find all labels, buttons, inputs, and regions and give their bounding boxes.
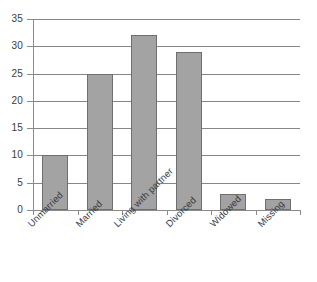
y-tick-mark-35 — [27, 19, 33, 20]
y-tick-label-5: 5 — [1, 178, 23, 188]
y-tick-label-20: 20 — [1, 96, 23, 106]
y-tick-mark-5 — [27, 183, 33, 184]
y-tick-mark-20 — [27, 101, 33, 102]
y-axis-line — [33, 19, 34, 211]
gridline-25 — [33, 74, 300, 75]
y-tick-label-25: 25 — [1, 69, 23, 79]
x-tick-mark-5 — [256, 210, 257, 215]
x-tick-mark-3 — [167, 210, 168, 215]
bar-chart: 35 30 25 20 15 10 5 0 Unmarried Married … — [0, 0, 317, 282]
x-tick-mark-4 — [211, 210, 212, 215]
y-tick-mark-10 — [27, 155, 33, 156]
gridline-10 — [33, 155, 300, 156]
gridline-20 — [33, 101, 300, 102]
y-tick-label-0: 0 — [1, 205, 23, 215]
y-tick-mark-15 — [27, 128, 33, 129]
bar-divorced[interactable] — [176, 52, 202, 210]
y-tick-label-15: 15 — [1, 123, 23, 133]
gridline-15 — [33, 128, 300, 129]
x-tick-mark-6 — [300, 210, 301, 215]
bar-married[interactable] — [87, 74, 113, 210]
y-tick-label-10: 10 — [1, 150, 23, 160]
y-tick-label-30: 30 — [1, 41, 23, 51]
gridline-5 — [33, 183, 300, 184]
y-tick-mark-25 — [27, 74, 33, 75]
gridline-35 — [33, 19, 300, 20]
gridline-30 — [33, 46, 300, 47]
y-tick-label-35: 35 — [1, 14, 23, 24]
y-tick-mark-30 — [27, 46, 33, 47]
